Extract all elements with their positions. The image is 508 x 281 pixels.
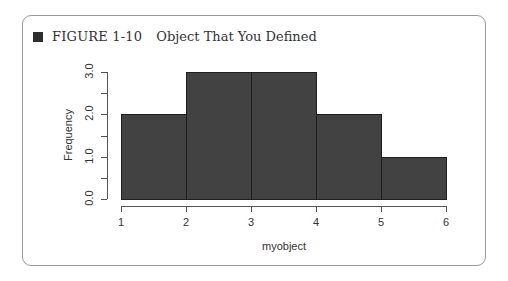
y-tick [101,72,107,73]
y-tick-label: 3.0 [83,56,95,86]
y-tick [101,199,107,200]
x-tick-label: 6 [436,216,456,228]
x-tick [121,206,122,212]
x-tick [186,206,187,212]
y-tick-label: 1.0 [83,141,95,171]
histogram-bar [251,72,317,200]
y-axis-title: Frequency [62,100,74,170]
histogram-plot: Frequency myobject 0.01.02.03.0123456 [0,0,508,281]
histogram-bar [121,114,187,200]
y-tick-label: 2.0 [83,98,95,128]
histogram-bar [316,114,382,200]
y-tick [101,178,107,179]
x-tick-label: 5 [371,216,391,228]
x-tick [446,206,447,212]
x-tick [251,206,252,212]
y-axis [107,72,108,199]
y-tick [101,157,107,158]
x-tick [316,206,317,212]
y-tick [101,136,107,137]
x-axis [121,206,447,207]
x-axis-title: myobject [254,240,314,252]
x-tick-label: 4 [306,216,326,228]
y-tick [101,114,107,115]
y-tick-label: 0.0 [83,183,95,213]
x-tick [381,206,382,212]
x-tick-label: 3 [241,216,261,228]
y-tick [101,93,107,94]
histogram-bar [186,72,252,200]
x-tick-label: 1 [111,216,131,228]
histogram-bar [381,157,447,200]
x-tick-label: 2 [176,216,196,228]
